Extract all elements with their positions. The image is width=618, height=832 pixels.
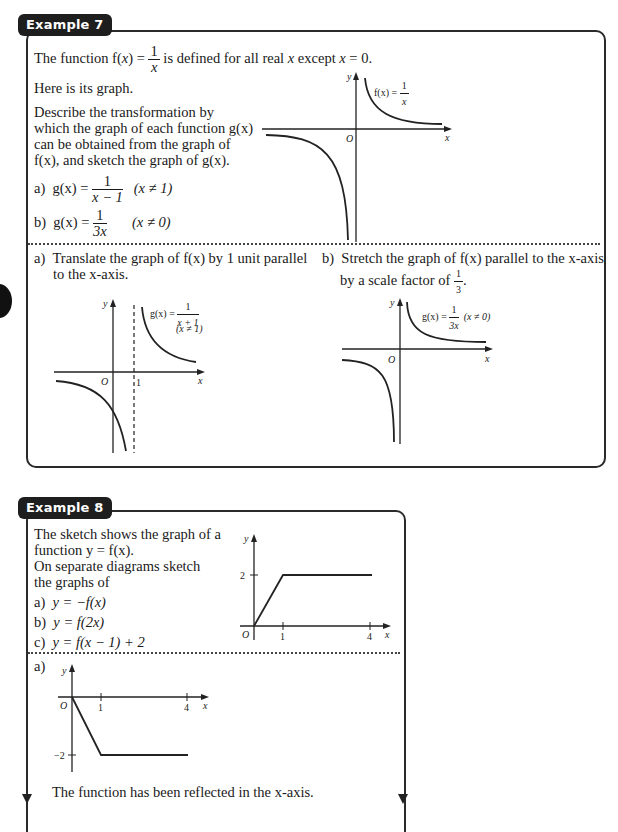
example-8-part-b: b) y = f(2x): [34, 614, 104, 631]
svg-text:4: 4: [184, 702, 189, 713]
margin-marker: [0, 284, 12, 318]
example-7-part-b: b) g(x) = 13x (x ≠ 0): [34, 208, 171, 239]
svg-text:y: y: [61, 665, 67, 676]
svg-text:1: 1: [98, 702, 103, 713]
continuation-arrow-right: [398, 790, 408, 804]
graph-piecewise: 2 1 4 O x y: [236, 532, 396, 644]
example-8-part-a: a) y = −f(x): [34, 594, 106, 611]
example-7-intro: The function f(x) = 1x is defined for al…: [34, 44, 372, 75]
graph-stretched-label: g(x) = 13x (x ≠ 0): [422, 302, 490, 333]
solution-a-line-0: a) Translate the graph of f(x) by 1 unit…: [34, 250, 307, 267]
describe-line-2: can be obtained from the graph of: [34, 136, 230, 153]
graph-reflected: −2 1 4 O x y: [54, 662, 214, 774]
solution-a-line-1: to the x-axis.: [53, 266, 128, 283]
example-8-conclusion: The function has been reflected in the x…: [52, 784, 314, 801]
svg-text:y: y: [243, 533, 249, 544]
divider-example-8: [28, 652, 400, 654]
svg-text:4: 4: [367, 631, 372, 642]
svg-text:y: y: [102, 298, 108, 309]
graph-translated-cond: (x ≠ 1): [176, 323, 203, 334]
svg-text:1: 1: [280, 631, 285, 642]
svg-text:O: O: [101, 376, 108, 387]
svg-text:x: x: [444, 132, 450, 143]
here-is-graph: Here is its graph.: [34, 80, 133, 97]
svg-text:−2: −2: [54, 750, 65, 761]
example-8-line-2: On separate diagrams sketch: [34, 558, 200, 575]
example-8-line-3: the graphs of: [34, 574, 110, 591]
svg-text:y: y: [346, 72, 352, 82]
svg-text:O: O: [242, 629, 249, 640]
svg-text:O: O: [388, 354, 395, 365]
svg-text:1: 1: [136, 377, 141, 388]
solution-b-line-1: by a scale factor of 13.: [340, 266, 467, 297]
example-8-line-1: function y = f(x).: [34, 542, 134, 559]
example-8-tab: Example 8: [18, 497, 112, 519]
svg-text:y: y: [389, 297, 395, 308]
svg-text:x: x: [484, 353, 490, 364]
describe-line-0: Describe the transformation by: [34, 104, 214, 121]
describe-line-3: f(x), and sketch the graph of g(x).: [34, 152, 230, 169]
svg-text:x: x: [197, 375, 203, 386]
svg-text:x: x: [384, 629, 390, 640]
example-8-line-0: The sketch shows the graph of a: [34, 526, 221, 543]
divider-example-7: [28, 243, 600, 245]
solution-b-line-0: b) Stretch the graph of f(x) parallel to…: [322, 250, 604, 267]
example-8-solution-a-label: a): [34, 658, 45, 675]
continuation-arrow-left: [22, 790, 32, 804]
svg-text:x: x: [202, 700, 208, 711]
example-7-part-a: a) g(x) = 1x − 1 (x ≠ 1): [34, 174, 172, 205]
example-7-tab: Example 7: [18, 14, 112, 36]
svg-text:O: O: [346, 133, 353, 144]
describe-line-1: which the graph of each function g(x): [34, 120, 253, 137]
graph-f-reciprocal: O x y: [262, 72, 452, 242]
svg-text:O: O: [60, 700, 67, 711]
graph-f-label: f(x) = 1x: [374, 78, 409, 109]
svg-text:2: 2: [240, 570, 245, 581]
example-8-part-c: c) y = f(x − 1) + 2: [34, 634, 145, 651]
